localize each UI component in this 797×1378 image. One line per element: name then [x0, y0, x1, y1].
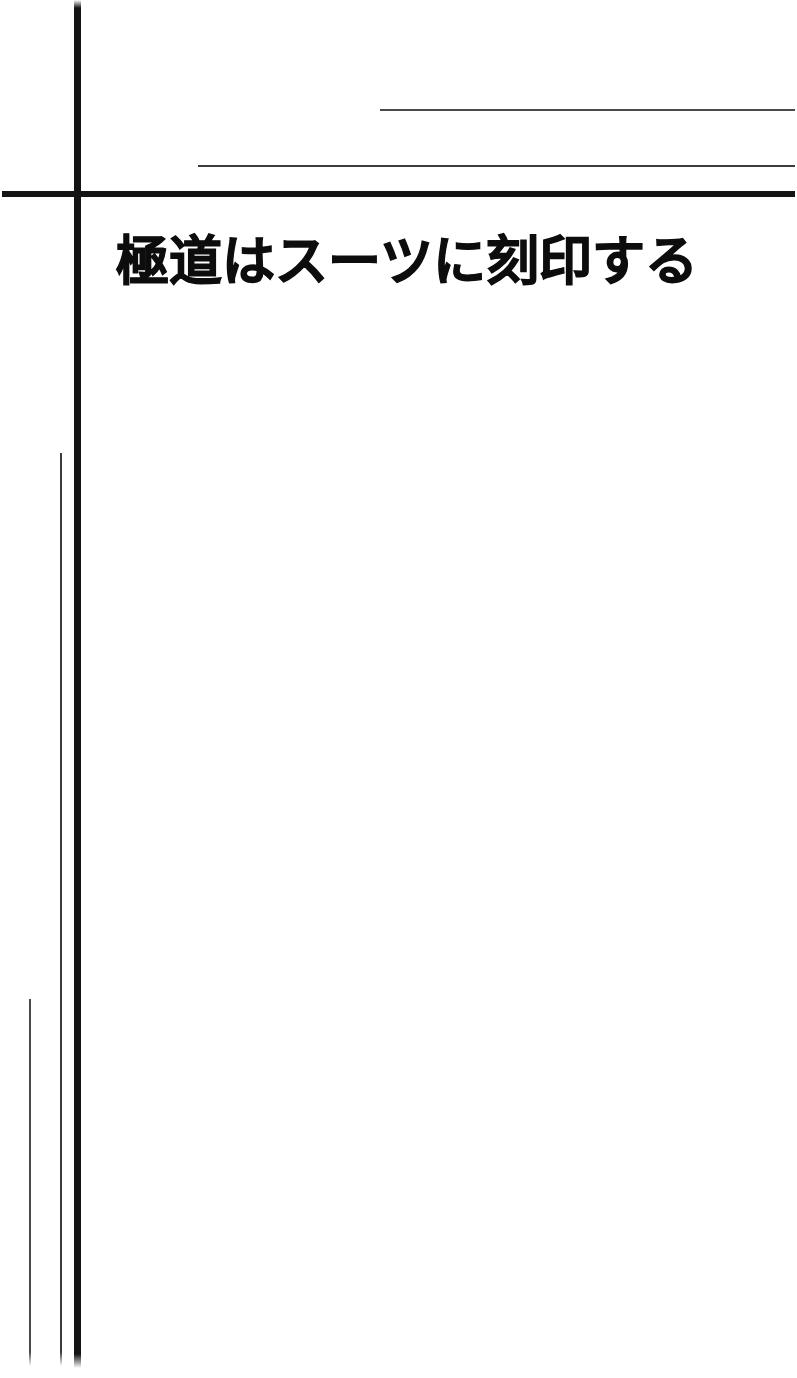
title-block: 極道はスーツに刻印する [116, 222, 756, 302]
vertical-gutter-rule [74, 0, 81, 1368]
manga-title-page: 極道はスーツに刻印する [0, 0, 797, 1378]
page-body-blank-area [84, 310, 789, 1360]
horizontal-header-divider-rule [2, 191, 795, 197]
horizontal-upper-hairline-rule [380, 109, 795, 111]
vertical-inner-hairline-rule [60, 453, 62, 1366]
page-title: 極道はスーツに刻印する [116, 234, 698, 290]
horizontal-lower-hairline-rule [198, 165, 795, 167]
vertical-outer-hairline-rule [29, 999, 31, 1366]
